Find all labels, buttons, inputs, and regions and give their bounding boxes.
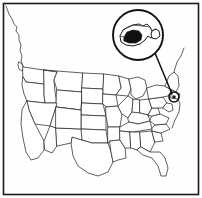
state-south-dakota [82, 88, 103, 104]
state-north-dakota [82, 73, 104, 89]
state-washington [23, 67, 44, 84]
state-indiana [132, 99, 140, 113]
state-wyoming [56, 90, 82, 110]
state-colorado [56, 107, 81, 129]
state-iowa [103, 94, 118, 107]
state-nebraska [81, 103, 106, 116]
map-target-marker-dot [172, 95, 176, 99]
inset-highlighted-district [124, 30, 142, 43]
state-alabama [130, 132, 141, 150]
us-map-svg [0, 0, 202, 198]
magnifier-inset [113, 10, 163, 60]
map-figure [0, 0, 202, 198]
state-kansas [81, 115, 106, 130]
inset-cape-cod [151, 29, 160, 39]
